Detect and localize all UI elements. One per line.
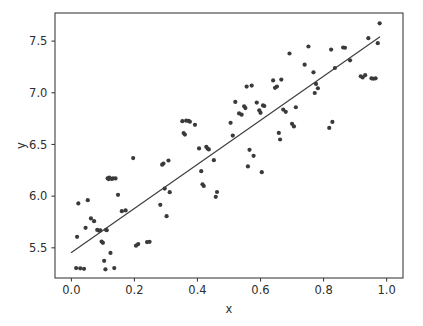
data-point xyxy=(284,110,288,114)
data-point xyxy=(329,47,333,51)
data-point xyxy=(188,120,192,124)
plot-canvas: 0.00.20.40.60.81.05.56.06.57.07.5 xy xyxy=(0,0,423,326)
data-point xyxy=(250,83,254,87)
data-point xyxy=(343,46,347,50)
x-tick-label: 0.2 xyxy=(125,283,143,297)
data-point xyxy=(247,148,251,152)
data-point xyxy=(212,158,216,162)
data-point xyxy=(279,77,283,81)
data-point xyxy=(158,203,162,207)
data-point xyxy=(306,44,310,48)
data-point xyxy=(260,170,264,174)
data-point xyxy=(215,190,219,194)
data-point xyxy=(255,101,259,105)
data-point xyxy=(231,133,235,137)
x-axis-title: x xyxy=(226,302,233,316)
data-point xyxy=(243,106,247,110)
scatter-plot-figure: 0.00.20.40.60.81.05.56.06.57.07.5 xy xyxy=(0,0,423,326)
data-point xyxy=(86,198,90,202)
data-point xyxy=(197,146,201,150)
data-point xyxy=(292,124,296,128)
y-tick-label: 7.5 xyxy=(29,34,47,48)
data-point xyxy=(202,184,206,188)
data-point xyxy=(120,209,124,213)
data-point xyxy=(240,113,244,117)
data-point xyxy=(74,266,78,270)
data-point xyxy=(168,190,172,194)
data-point xyxy=(207,147,211,151)
data-point xyxy=(102,259,106,263)
data-point xyxy=(233,100,237,104)
data-point xyxy=(164,214,168,218)
data-point xyxy=(147,240,151,244)
data-point xyxy=(311,70,315,74)
y-tick-label: 6.0 xyxy=(29,189,47,203)
data-point xyxy=(92,219,96,223)
data-point xyxy=(373,76,377,80)
x-tick-label: 0.0 xyxy=(62,283,80,297)
x-tick-label: 0.4 xyxy=(188,283,206,297)
data-point xyxy=(275,84,279,88)
data-point xyxy=(183,132,187,136)
data-point xyxy=(83,226,87,230)
data-point xyxy=(294,105,298,109)
data-point xyxy=(246,164,250,168)
data-point xyxy=(251,154,255,158)
data-point xyxy=(161,161,165,165)
data-point xyxy=(327,126,331,130)
data-point xyxy=(366,36,370,40)
data-point xyxy=(166,158,170,162)
y-axis-title: y xyxy=(14,142,28,149)
data-point xyxy=(376,41,380,45)
y-tick-label: 7.0 xyxy=(29,86,47,100)
data-point xyxy=(378,21,382,25)
data-point xyxy=(287,51,291,55)
data-point xyxy=(277,131,281,135)
data-point xyxy=(271,78,275,82)
data-point xyxy=(199,169,203,173)
data-point xyxy=(193,123,197,127)
data-point xyxy=(258,111,262,115)
data-point xyxy=(180,119,184,123)
data-point xyxy=(131,156,135,160)
data-point xyxy=(124,208,128,212)
data-point xyxy=(278,137,282,141)
data-point xyxy=(78,266,82,270)
data-point xyxy=(214,195,218,199)
data-point xyxy=(330,120,334,124)
data-point xyxy=(75,235,79,239)
data-point xyxy=(245,84,249,88)
x-tick-label: 0.8 xyxy=(314,283,332,297)
data-point xyxy=(316,86,320,90)
data-point xyxy=(108,251,112,255)
data-point xyxy=(82,267,86,271)
x-tick-label: 1.0 xyxy=(377,283,395,297)
data-point xyxy=(112,266,116,270)
data-point xyxy=(313,91,317,95)
x-tick-label: 0.6 xyxy=(251,283,269,297)
y-tick-label: 5.5 xyxy=(29,241,47,255)
data-point xyxy=(136,242,140,246)
data-point xyxy=(116,193,120,197)
data-point xyxy=(101,241,105,245)
data-point xyxy=(76,201,80,205)
plot-background xyxy=(0,0,423,326)
data-point xyxy=(228,121,232,125)
data-point xyxy=(363,73,367,77)
data-point xyxy=(113,176,117,180)
data-point xyxy=(262,104,266,108)
data-point xyxy=(103,267,107,271)
y-tick-label: 6.5 xyxy=(29,138,47,152)
data-point xyxy=(303,63,307,67)
